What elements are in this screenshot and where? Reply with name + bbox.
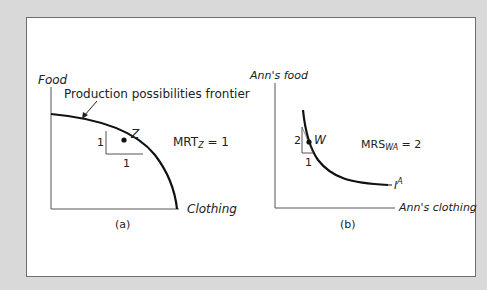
ppf-label: Production possibilities frontier: [64, 88, 250, 100]
panel-b-x-axis-label: Ann's clothing: [399, 202, 477, 213]
mrt-equation: MRTZ = 1: [173, 136, 229, 150]
panel-a-axes: [51, 87, 179, 209]
ic-label-sup: A: [397, 177, 402, 186]
mrt-text: MRT: [173, 135, 198, 149]
ppf-pointer-arrow: [82, 101, 97, 119]
point-z-label: Z: [131, 128, 139, 140]
point-w-label: W: [314, 134, 326, 146]
panel-a-y-axis-label: Food: [38, 74, 67, 86]
panel-b-run-label: 1: [305, 157, 312, 168]
panel-b-caption: (b): [340, 219, 356, 230]
mrt-value: = 1: [204, 135, 229, 149]
indifference-curve-label: IA: [394, 178, 403, 191]
panel-b-y-axis-label: Ann's food: [250, 70, 308, 81]
mrs-equation: MRSWA = 2: [361, 139, 421, 152]
panel-a-x-axis-label: Clothing: [187, 203, 237, 215]
point-w: [306, 139, 311, 144]
panel-a-rise-label: 1: [97, 137, 104, 148]
panel-a-run-label: 1: [123, 158, 130, 169]
point-z: [121, 137, 126, 142]
production-possibilities-frontier-curve: [51, 114, 177, 209]
panel-b-rise-label: 2: [294, 135, 301, 146]
mrs-value: = 2: [398, 138, 421, 151]
mrs-subscript: WA: [385, 143, 398, 152]
mrs-text: MRS: [361, 138, 385, 151]
panel-a-caption: (a): [115, 219, 130, 230]
